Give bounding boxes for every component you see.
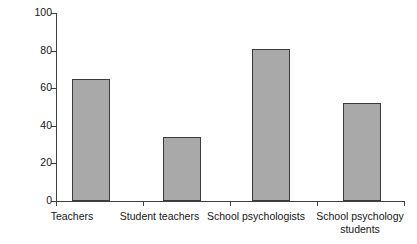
y-tick-label: 100: [34, 6, 52, 18]
y-tick-label: 60: [40, 81, 52, 93]
bar-teachers: [72, 79, 110, 201]
y-tick-label: 40: [40, 119, 52, 131]
bar-student-teachers: [163, 137, 201, 201]
y-axis-line: [56, 13, 57, 202]
x-label-teachers: Teachers: [27, 210, 117, 223]
x-label-school-psychology-students: School psychology students: [308, 210, 412, 235]
y-tick-label: 80: [40, 44, 52, 56]
bar-chart-figure: % of participants 100 80 60 40 20 0: [0, 0, 417, 244]
x-tick-mark: [56, 201, 57, 206]
bar-school-psychologists: [252, 49, 290, 201]
x-tick-mark: [230, 201, 231, 206]
x-tick-mark: [317, 201, 318, 206]
y-tick-label: 20: [40, 156, 52, 168]
y-tick-label: 0: [46, 194, 52, 206]
x-tick-mark: [143, 201, 144, 206]
x-label-school-psychologists: School psychologists: [204, 210, 308, 223]
x-label-student-teachers: Student teachers: [112, 210, 207, 223]
x-tick-mark: [404, 201, 405, 206]
bar-school-psychology-students: [343, 103, 381, 201]
plot-area: 100 80 60 40 20 0: [56, 13, 405, 202]
